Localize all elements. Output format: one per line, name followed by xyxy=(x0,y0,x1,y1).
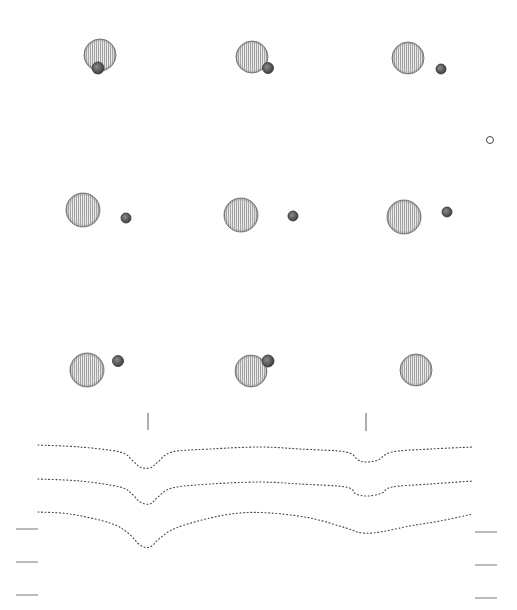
moon-icon xyxy=(442,207,452,217)
frame-7 xyxy=(70,353,124,387)
curve-middle xyxy=(38,479,473,504)
frame-8 xyxy=(235,355,274,387)
frame-5 xyxy=(224,198,298,232)
moon-icon xyxy=(262,355,274,367)
event-ticks-layer xyxy=(148,413,366,431)
frame-2 xyxy=(236,41,274,74)
moon-icon xyxy=(288,211,298,221)
small-circle-marker-icon xyxy=(487,137,494,144)
moon-icon xyxy=(263,63,274,74)
figure-canvas xyxy=(0,0,517,610)
frames-layer xyxy=(66,39,452,387)
planet-limb-shade xyxy=(70,353,104,387)
planet-limb-shade xyxy=(66,193,100,227)
planet-limb-shade xyxy=(400,354,432,386)
frame-4 xyxy=(66,193,131,227)
mutual-event-figure xyxy=(0,0,517,610)
planet-limb-shade xyxy=(392,42,424,74)
scale-ticks-layer xyxy=(16,529,497,598)
frame-9 xyxy=(400,354,432,386)
small-marker-layer xyxy=(487,137,494,144)
moon-icon xyxy=(113,356,124,367)
curve-bottom xyxy=(38,512,473,548)
light-curves-layer xyxy=(38,445,473,548)
frame-1 xyxy=(84,39,116,74)
planet-limb-shade xyxy=(387,200,421,234)
frame-6 xyxy=(387,200,452,234)
planet-limb-shade xyxy=(224,198,258,232)
moon-icon xyxy=(121,213,131,223)
moon-icon xyxy=(92,62,104,74)
frame-3 xyxy=(392,42,446,74)
curve-top xyxy=(38,445,473,468)
moon-icon xyxy=(436,64,446,74)
